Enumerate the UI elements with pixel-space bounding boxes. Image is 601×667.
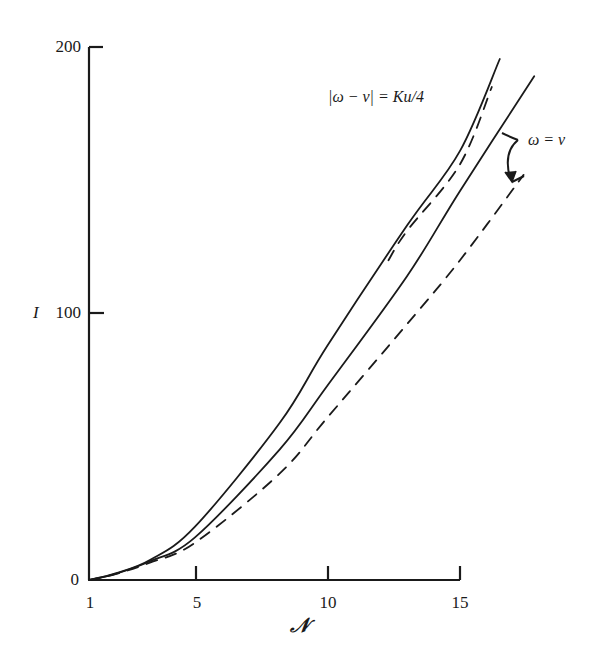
annotation-omega-equals-nu: ω = ν xyxy=(528,132,565,148)
x-tick-label-5: 5 xyxy=(182,594,212,611)
chart-canvas xyxy=(0,0,601,667)
series-group xyxy=(89,59,534,580)
series-line-3 xyxy=(89,175,524,580)
y-tick-label-0: 0 xyxy=(29,571,79,588)
series-line-1 xyxy=(389,87,492,260)
y-tick-label-200: 200 xyxy=(31,38,81,55)
series-line-2 xyxy=(89,76,534,580)
y-axis-label: I xyxy=(33,304,39,321)
axes xyxy=(89,47,460,580)
annotation-ku-over-4: |ω − ν| = Ku/4 xyxy=(328,89,424,105)
x-tick-label-10: 10 xyxy=(313,594,343,611)
omega-equals-nu-bracket-arrow-icon xyxy=(502,133,524,182)
x-tick-label-1: 1 xyxy=(75,594,105,611)
x-tick-label-15: 15 xyxy=(445,594,475,611)
x-axis-label: 𝒩 xyxy=(290,615,309,635)
series-line-0 xyxy=(89,59,500,580)
